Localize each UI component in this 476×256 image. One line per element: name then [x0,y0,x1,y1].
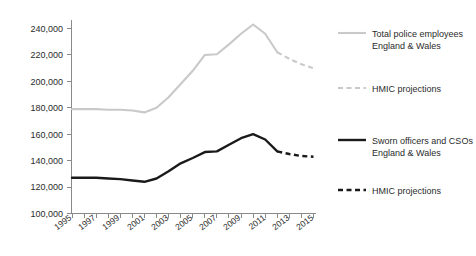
legend-label-line2: England & Wales [372,148,441,158]
chart-canvas: 240,000 220,000 200,000 180,000 160,000 … [0,0,476,256]
x-tick-label: 2011 [247,212,268,231]
y-tick-label: 240,000 [30,24,63,34]
x-tick-label: 2009 [221,212,242,232]
series-line-total-police-projection [277,52,313,68]
series-line-sworn-officers-projection [277,151,313,156]
x-tick-label: 2005 [173,212,194,232]
y-tick-label: 200,000 [30,77,63,87]
legend-item-total-police-employees: Total police employees England & Wales [338,29,464,51]
y-tick-label: 120,000 [30,182,63,192]
y-tick-label: 160,000 [30,130,63,140]
x-tick-label: 2007 [197,212,218,232]
legend-label-line1: Total police employees [372,29,464,39]
y-axis-tick-labels: 240,000 220,000 200,000 180,000 160,000 … [30,24,63,219]
chart-legend: Total police employees England & Wales H… [338,29,473,196]
police-workforce-line-chart: 240,000 220,000 200,000 180,000 160,000 … [0,0,476,256]
y-tick-label: 140,000 [30,156,63,166]
legend-item-hmic-projections-sworn: HMIC projections [338,186,442,196]
y-tick-label: 100,000 [30,209,63,219]
x-tick-label: 2013 [270,212,291,232]
x-tick-label: 2015 [294,212,315,232]
y-axis-ticks [67,29,72,214]
y-tick-label: 180,000 [30,103,63,113]
legend-item-sworn-officers-csos: Sworn officers and CSOs England & Wales [338,136,473,158]
x-tick-label: 2003 [149,212,170,232]
y-tick-label: 220,000 [30,50,63,60]
x-tick-label: 2001 [125,212,146,232]
x-tick-label: 1999 [100,212,121,232]
legend-label-line1: HMIC projections [372,84,442,94]
series-line-total-police-employees [72,25,277,113]
series-line-sworn-officers-csos [72,134,277,182]
legend-item-hmic-projections-total: HMIC projections [338,84,442,94]
legend-label-line1: HMIC projections [372,186,442,196]
x-tick-label: 1997 [76,212,97,232]
x-axis-tick-labels: 1995 1997 1999 2001 2003 2005 2007 2009 … [52,212,315,232]
legend-label-line2: England & Wales [372,41,441,51]
legend-label-line1: Sworn officers and CSOs [372,136,473,146]
